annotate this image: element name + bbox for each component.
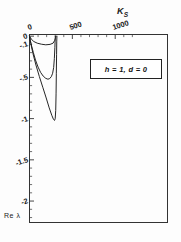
curve-near-zero-branch bbox=[30, 36, 57, 45]
x-axis-ticks bbox=[30, 35, 133, 40]
figure-canvas: KS 05001000 0-.1-.5-1-1.5-2 Re λ h = 1, … bbox=[0, 0, 181, 242]
curve-upper-branch bbox=[30, 36, 56, 79]
legend-box: h = 1, d = 0 bbox=[90, 59, 162, 79]
y-axis-ticks bbox=[30, 36, 35, 217]
x-axis-title-text: K bbox=[117, 6, 124, 16]
x-axis-title-subscript: S bbox=[124, 11, 129, 18]
curve-lower-branch bbox=[30, 36, 57, 120]
data-curves bbox=[30, 36, 57, 120]
y-axis-label: Re λ bbox=[4, 212, 20, 219]
legend-parameter-text: h = 1, d = 0 bbox=[105, 65, 147, 74]
x-axis-title: KS bbox=[117, 6, 128, 18]
